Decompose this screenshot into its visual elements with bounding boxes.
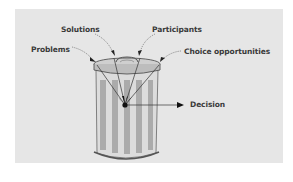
label-choice-opportunities: Choice opportunities: [184, 47, 270, 56]
label-participants: Participants: [152, 25, 202, 34]
label-problems: Problems: [31, 45, 70, 54]
label-solutions: Solutions: [61, 25, 100, 34]
label-decision: Decision: [190, 100, 225, 109]
garbage-can-diagram: [0, 0, 293, 182]
decision-point: [122, 102, 127, 107]
garbage-can-icon: [94, 57, 160, 159]
